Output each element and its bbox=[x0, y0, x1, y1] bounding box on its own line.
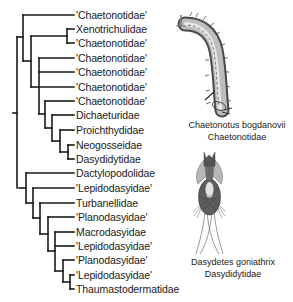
chaetonotus-family-name: Chaetonotidae bbox=[187, 131, 287, 143]
chaetonotus-caption: Chaetonotus bogdanovii Chaetonotidae bbox=[187, 119, 287, 143]
dasydetes-family-name: Dasydidytidae bbox=[183, 268, 283, 280]
dasydetes-caption: Dasydetes goniathrix Dasydidytidae bbox=[183, 256, 283, 280]
dasydetes-species-name: Dasydetes goniathrix bbox=[183, 256, 283, 268]
chaetonotus-species-name: Chaetonotus bogdanovii bbox=[187, 119, 287, 131]
